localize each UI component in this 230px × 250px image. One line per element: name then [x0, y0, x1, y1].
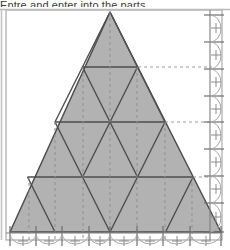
- cross-mark: [211, 104, 221, 114]
- cross-mark: [211, 157, 221, 167]
- cross-mark: [119, 236, 129, 246]
- cross-mark: [18, 236, 28, 246]
- cross-mark: [211, 130, 221, 140]
- cross-mark: [70, 236, 80, 246]
- cross-mark: [211, 50, 221, 60]
- diagram-stage: [0, 0, 230, 250]
- right-axis-arcs: [210, 15, 221, 232]
- right-axis-ticks: [204, 15, 224, 232]
- cross-mark: [211, 184, 221, 194]
- cross-mark: [95, 236, 105, 246]
- cross-mark: [211, 23, 221, 33]
- cross-mark: [172, 236, 182, 246]
- triangle-diagram-svg: [0, 0, 230, 250]
- cross-mark: [211, 77, 221, 87]
- cross-mark: [145, 236, 155, 246]
- cross-mark: [44, 236, 54, 246]
- bottom-axis-arcs: [10, 233, 221, 244]
